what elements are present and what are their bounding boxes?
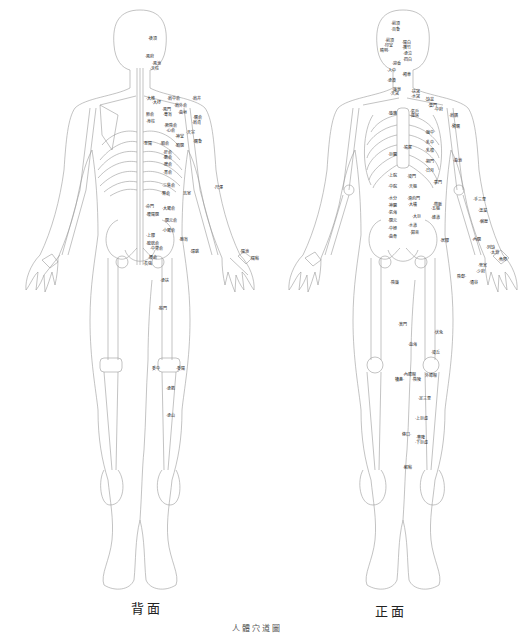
acupoint-label: ·承筋 [166, 386, 175, 391]
acupoint-label: ·膈俞 [160, 141, 169, 146]
acupoint-label: ·五樞 [431, 206, 440, 211]
acupoint-label: ·神闕 [388, 203, 397, 208]
acupoint-label: 條口· [402, 432, 411, 437]
acupoint-label: ·乳中 [425, 140, 434, 145]
acupoint-label: 陰郄· [457, 274, 466, 279]
acupoint-label: ·章門 [433, 180, 442, 185]
acupoint-label: ·上髎 [146, 233, 155, 238]
acupoint-label: ·手三里 [473, 197, 486, 202]
acupoint-label: ·迎香 [392, 61, 401, 66]
acupoint-label: ·臂臑 [451, 124, 460, 129]
acupoint-label: 志室 [183, 191, 191, 196]
acupoint-label: ·陽池 [240, 249, 249, 254]
acupoint-label: ·承山 [166, 413, 175, 418]
acupoint-label: ·承漿 [387, 78, 396, 83]
acupoint-label: ·承扶 [160, 278, 169, 283]
acupoint-label: ·風府 [145, 54, 154, 59]
acupoint-label: 外膝眼 [425, 373, 437, 378]
acupoint-label: 委中 [152, 366, 160, 371]
acupoint-label: ·天柱 [150, 66, 159, 71]
acupoint-label: ·魚際 [498, 257, 507, 262]
acupoint-label: ·天突 [390, 91, 399, 96]
acupoint-label: ·攢竹 [402, 45, 411, 50]
acupoint-label: ·肩外俞 [174, 103, 187, 108]
acupoint-label: ·膽俞 [163, 155, 172, 160]
acupoint-label: ·膈關 [175, 143, 184, 148]
acupoint-label: ·巨闕 [388, 152, 397, 157]
acupoint-label: ·小腸俞 [162, 228, 175, 233]
acupoint-label: ·前頂 [391, 21, 400, 26]
acupoint-label: ·缺盆 [425, 97, 434, 102]
acupoint-label: ·陽谿 [250, 256, 259, 261]
acupoint-label: ·水道 [408, 223, 417, 228]
acupoint-label: ·通谷 [469, 280, 478, 285]
acupoint-label: ·三焦俞 [162, 183, 175, 188]
front-body-outline-icon [289, 10, 517, 589]
acupoint-label: ·身柱 [146, 119, 155, 124]
acupoint-label: ·庫房 [410, 113, 419, 118]
acupoint-label: ·鳩尾 [403, 145, 412, 150]
acupoint-label: ·委陽 [176, 366, 185, 371]
acupoint-label: ·中膂俞 [150, 246, 163, 251]
acupoint-label: ·血海 [408, 342, 417, 347]
back-skeleton-icon [42, 68, 252, 505]
acupoint-label: ·氣海 [388, 210, 397, 215]
acupoint-label: ·少府 [476, 269, 485, 274]
acupoint-label: ·內關 [472, 237, 481, 242]
acupoint-label: 犢鼻· [395, 377, 404, 382]
acupoint-label: ·關元 [388, 218, 397, 223]
acupoint-label: ·日月 [425, 168, 434, 173]
acupoint-label: ·關元俞 [164, 218, 177, 223]
acupoint-label: ·溫溜 [478, 208, 487, 213]
back-view-caption: 背面 [131, 598, 163, 617]
acupoint-label: ·大杼 [152, 100, 161, 105]
acupoint-label: ·人中 [387, 68, 396, 73]
acupoint-label: ·命門 [145, 204, 154, 209]
acupoint-label: ·神堂 [175, 134, 184, 139]
acupoint-label: ·居髎 [440, 238, 449, 243]
acupoint-label: ·膻中 [425, 130, 434, 135]
acupoint-label: ·脾俞 [163, 162, 172, 167]
acupoint-label: ·滑肉門 [407, 196, 420, 201]
acupoint-label: ·陰陵 [412, 377, 421, 382]
acupoint-label: ·箕門 [398, 322, 407, 327]
acupoint-label: ·中脘 [388, 184, 397, 189]
acupoint-label: ·至陽 [143, 141, 152, 146]
acupoint-label: ·肩髃 [449, 113, 458, 118]
acupoint-label: ·下巨虛 [415, 440, 428, 445]
acupoint-label: ·水分 [388, 196, 397, 201]
acupoint-label: 睛明· [380, 48, 389, 53]
acupoint-label: ·璇璣 [388, 111, 397, 116]
acupoint-label: ·後頂 [148, 36, 157, 41]
acupoint-label: ·頰車 [402, 72, 411, 77]
acupoint-label: ·陰廉 [390, 280, 399, 285]
acupoint-label: ·期門 [425, 159, 434, 164]
acupoint-label: 肺俞 [146, 112, 154, 117]
acupoint-label: ·承泣 [403, 51, 412, 56]
acupoint-label: ·心俞 [166, 128, 175, 133]
acupoint-label: ·水突 [411, 94, 420, 99]
acupoint-label: ·上脘 [388, 173, 397, 178]
acupoint-label: ·偏歷 [479, 219, 488, 224]
acupoint-label: ·曲垣 [178, 110, 187, 115]
acupoint-label: ·尺澤 [214, 185, 223, 190]
acupoint-label: ·胞肓 [179, 237, 188, 242]
acupoint-label: ·伏兔 [434, 330, 443, 335]
acupoint-label: ·腰俞 [148, 255, 157, 260]
acupoint-label: ·解谿 [403, 465, 412, 470]
acupoint-label: ·長強 [143, 261, 152, 266]
acupoint-label: ·腎俞 [161, 191, 170, 196]
acupoint-label: ·百會 [391, 27, 400, 32]
acupoint-label: ·曲骨 [388, 234, 397, 239]
acupoint-label: ·腰陽關 [146, 212, 159, 217]
acupoint-label: ·天樞 [408, 184, 417, 189]
acupoint-label: ·乳根 [425, 148, 434, 153]
acupoint-label: ·足三里 [418, 396, 431, 401]
acupoint-label: ·四白 [403, 57, 412, 62]
acupoint-label: ·中府 [434, 107, 443, 112]
acupoint-label: ·上巨虛 [415, 416, 428, 421]
acupoint-label: ·曲池 [453, 158, 462, 163]
figure-title: 人體穴道圖 [232, 622, 282, 633]
acupoint-label: ·勞宮 [478, 263, 487, 268]
